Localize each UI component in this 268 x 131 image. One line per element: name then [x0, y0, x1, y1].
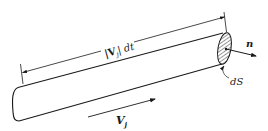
- dimension-tick-left: [21, 64, 24, 84]
- tube-top-edge: [18, 33, 223, 88]
- length-label: |Vj| dt: [103, 40, 137, 61]
- ds-leader: [223, 66, 229, 78]
- dimension-tick-right: [224, 12, 227, 32]
- cross-section-ds: [215, 32, 233, 66]
- stream-tube-diagram: |Vj| dt n dS Vj: [0, 0, 268, 131]
- area-label: dS: [230, 76, 243, 87]
- normal-label: n: [246, 38, 253, 49]
- velocity-label: Vj: [116, 114, 128, 129]
- dimension-line-left: [23, 51, 102, 73]
- tube-bottom-edge: [19, 64, 222, 121]
- dimension-line-right: [134, 17, 225, 42]
- tube-left-end: [13, 88, 19, 122]
